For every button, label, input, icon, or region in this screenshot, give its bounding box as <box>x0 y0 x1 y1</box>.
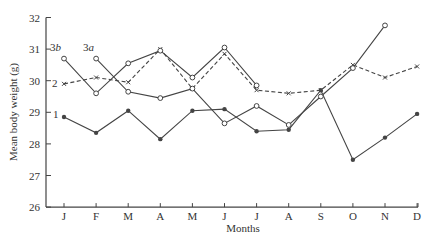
x-tick-label: M <box>123 210 133 222</box>
x-tick-label: F <box>93 210 99 222</box>
open-circle-marker <box>254 104 259 109</box>
open-circle-marker <box>158 96 163 101</box>
x-marker <box>126 80 130 84</box>
x-tick-label: M <box>188 210 198 222</box>
open-circle-marker <box>254 83 259 88</box>
series-1 <box>62 88 420 162</box>
series-3a <box>94 23 388 127</box>
open-circle-marker <box>383 23 388 28</box>
x-marker <box>255 88 259 92</box>
filled-circle-marker <box>126 109 130 113</box>
series-label-1: 1 <box>53 108 59 120</box>
series-line <box>64 90 417 160</box>
filled-circle-marker <box>383 135 387 139</box>
open-circle-marker <box>190 86 195 91</box>
open-circle-marker <box>126 61 131 66</box>
y-tick-label: 32 <box>29 12 40 24</box>
series-line <box>96 25 385 125</box>
open-circle-marker <box>222 45 227 50</box>
filled-circle-marker <box>190 109 194 113</box>
x-tick-label: J <box>62 210 67 222</box>
y-tick-label: 28 <box>29 138 41 150</box>
series-label-2: 2 <box>52 77 58 89</box>
y-tick-label: 26 <box>29 201 41 213</box>
y-tick-label: 29 <box>29 106 41 118</box>
x-tick-label: A <box>156 210 164 222</box>
open-circle-marker <box>190 75 195 80</box>
open-circle-marker <box>94 91 99 96</box>
filled-circle-marker <box>62 115 66 119</box>
filled-circle-marker <box>287 127 291 131</box>
filled-circle-marker <box>351 158 355 162</box>
open-circle-marker <box>94 56 99 61</box>
x-tick-label: O <box>349 210 357 222</box>
series-label-3a: 3a <box>83 41 95 53</box>
filled-circle-marker <box>415 112 419 116</box>
open-circle-marker <box>286 123 291 128</box>
x-marker <box>223 52 227 56</box>
x-tick-label: D <box>413 210 421 222</box>
filled-circle-marker <box>158 137 162 141</box>
series-2 <box>62 47 419 95</box>
series-group <box>62 23 420 162</box>
line-chart: 26272829303132JFMAMJJASOND 123a3b Months… <box>0 0 432 241</box>
open-circle-marker <box>351 66 356 71</box>
open-circle-marker <box>158 48 163 53</box>
open-circle-marker <box>62 56 67 61</box>
series-line <box>64 48 257 94</box>
series-line <box>64 49 417 93</box>
open-circle-marker <box>126 89 131 94</box>
x-axis-label: Months <box>226 222 260 234</box>
x-tick-label: S <box>318 210 324 222</box>
open-circle-marker <box>318 94 323 99</box>
series-label-3b: 3b <box>50 41 62 53</box>
open-circle-marker <box>222 121 227 126</box>
y-tick-label: 31 <box>29 43 40 55</box>
filled-circle-marker <box>254 129 258 133</box>
x-tick-label: N <box>381 210 389 222</box>
x-tick-label: J <box>222 210 227 222</box>
y-tick-label: 30 <box>29 75 41 87</box>
labels-group: 123a3b <box>50 41 95 120</box>
x-tick-label: A <box>285 210 293 222</box>
filled-circle-marker <box>94 131 98 135</box>
filled-circle-marker <box>222 107 226 111</box>
y-tick-label: 27 <box>29 170 41 182</box>
x-tick-label: J <box>254 210 259 222</box>
y-axis-label: Mean body weight (g) <box>7 63 20 161</box>
